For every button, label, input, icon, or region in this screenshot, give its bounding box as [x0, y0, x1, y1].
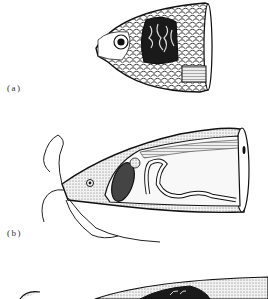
barbel — [44, 135, 64, 184]
figure-illustration — [0, 0, 268, 299]
panel-label-a: (a) — [7, 83, 22, 93]
barbel — [42, 190, 64, 222]
panel-c-drawing — [20, 277, 268, 299]
panel-b-drawing — [42, 128, 249, 242]
panel-a-drawing — [96, 3, 212, 92]
panel-label-b: (b) — [7, 228, 22, 238]
